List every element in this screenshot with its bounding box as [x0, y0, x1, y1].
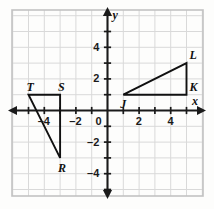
vertex-label-R: R [58, 162, 66, 174]
axes [8, 7, 206, 199]
x-tick-label-2: 2 [136, 116, 142, 127]
y-tick-label--4: –4 [87, 168, 99, 179]
vertex-label-T: T [27, 81, 34, 93]
y-axis-arrow-down [103, 190, 112, 199]
vertex-label-S: S [58, 81, 65, 93]
vertex-label-J: J [120, 98, 126, 110]
plot-canvas [0, 0, 214, 209]
x-tick-label--4: –4 [38, 116, 50, 127]
coordinate-plane-figure: –4–202442–2–4TSRJKLyx [0, 0, 214, 209]
x-axis-arrow-right [197, 106, 206, 115]
vertex-label-L: L [190, 49, 197, 61]
y-tick-label-2: 2 [93, 73, 99, 84]
x-tick-label-0: 0 [96, 116, 102, 127]
y-tick-label--2: –2 [87, 137, 99, 148]
x-tick-label--2: –2 [69, 116, 81, 127]
y-tick-label-4: 4 [93, 42, 99, 53]
y-axis-arrow-up [103, 7, 112, 16]
x-axis-label: x [192, 95, 198, 107]
y-axis-label: y [113, 9, 118, 21]
x-tick-label-4: 4 [167, 116, 173, 127]
vertex-label-K: K [190, 81, 198, 93]
